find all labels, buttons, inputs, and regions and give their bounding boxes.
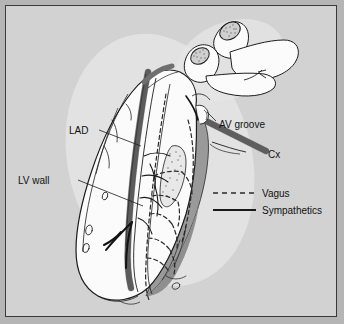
label-av-groove: AV groove <box>219 119 265 130</box>
legend-label-vagus: Vagus <box>262 188 290 199</box>
label-lv-wall: LV wall <box>18 175 50 186</box>
label-cx: Cx <box>268 149 280 160</box>
legend-label-sympathetics: Sympathetics <box>262 205 322 216</box>
figure-root: LAD LV wall AV groove Cx Vagus Sympathet… <box>0 0 344 324</box>
anatomical-illustration: LAD LV wall AV groove Cx Vagus Sympathet… <box>0 0 344 324</box>
label-lad: LAD <box>69 125 88 136</box>
